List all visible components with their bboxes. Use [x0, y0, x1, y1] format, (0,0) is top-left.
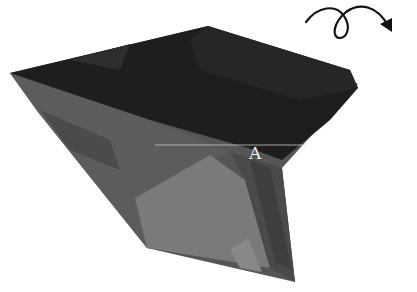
- folded-shape: [0, 0, 417, 292]
- diagram-canvas: A: [0, 0, 417, 292]
- rotation-arrow-icon: [306, 7, 392, 38]
- point-label-a: A: [249, 145, 261, 162]
